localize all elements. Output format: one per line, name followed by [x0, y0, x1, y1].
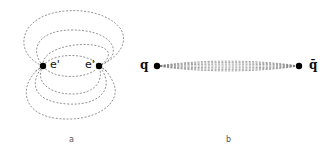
panel-a-left-charge — [40, 63, 46, 69]
panel-b-antiquark-label: q̄ — [309, 59, 317, 71]
panel-a-left-charge-label: e' — [50, 59, 60, 70]
panel-a-right-charge — [96, 63, 102, 69]
panel-a-right-charge-label: e' — [85, 59, 95, 70]
panel-b-caption: b — [226, 136, 231, 144]
panel-b-antiquark — [296, 63, 302, 69]
panel-b-quark — [154, 63, 160, 69]
panel-b-quark-label: q — [140, 59, 148, 71]
panel-b-flux-tube — [157, 61, 299, 71]
panel-a-caption: a — [69, 136, 74, 144]
diagram-canvas — [0, 0, 333, 152]
panel-a-field-lines — [24, 11, 124, 120]
